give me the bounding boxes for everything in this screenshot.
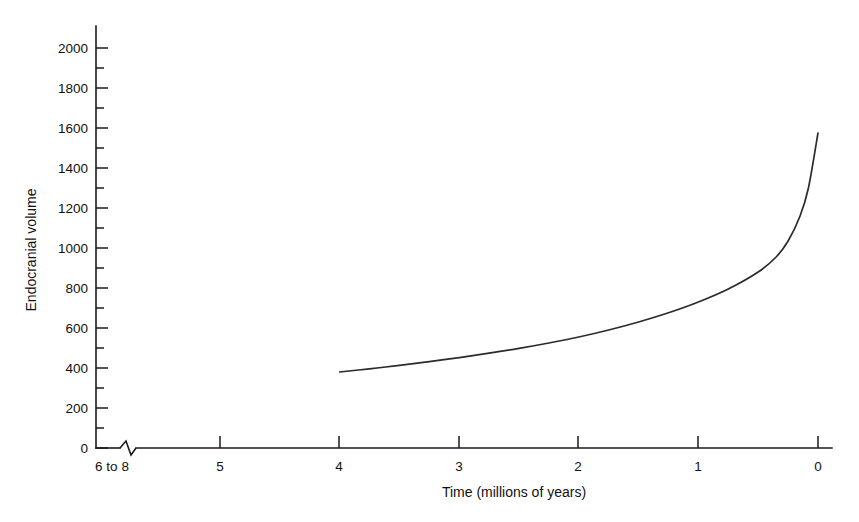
y-tick-label-600: 600 xyxy=(65,321,88,336)
x-axis-break-icon xyxy=(120,441,136,455)
x-axis-ticks xyxy=(220,436,818,448)
x-tick-label-1: 1 xyxy=(694,459,702,474)
x-tick-label-5: 5 xyxy=(216,459,224,474)
x-tick-label-3: 3 xyxy=(455,459,463,474)
chart-figure: 0 200 400 600 800 1000 1200 1400 1600 18… xyxy=(0,0,859,522)
endocranial-volume-curve xyxy=(340,133,818,372)
y-tick-label-2000: 2000 xyxy=(58,41,88,56)
y-tick-label-1000: 1000 xyxy=(58,241,88,256)
x-tick-label-2: 2 xyxy=(574,459,582,474)
y-tick-label-800: 800 xyxy=(65,281,88,296)
y-tick-label-1800: 1800 xyxy=(58,81,88,96)
x-axis-title: Time (millions of years) xyxy=(442,484,586,500)
x-tick-label-0: 0 xyxy=(814,459,822,474)
y-tick-label-0: 0 xyxy=(80,441,88,456)
y-tick-label-400: 400 xyxy=(65,361,88,376)
y-axis-title: Endocranial volume xyxy=(23,188,39,311)
y-tick-label-1600: 1600 xyxy=(58,121,88,136)
x-tick-label-6to8: 6 to 8 xyxy=(95,459,129,474)
y-tick-label-1400: 1400 xyxy=(58,161,88,176)
endocranial-volume-line-chart: 0 200 400 600 800 1000 1200 1400 1600 18… xyxy=(0,0,859,522)
x-tick-label-4: 4 xyxy=(335,459,343,474)
y-tick-label-200: 200 xyxy=(65,401,88,416)
y-tick-label-1200: 1200 xyxy=(58,201,88,216)
